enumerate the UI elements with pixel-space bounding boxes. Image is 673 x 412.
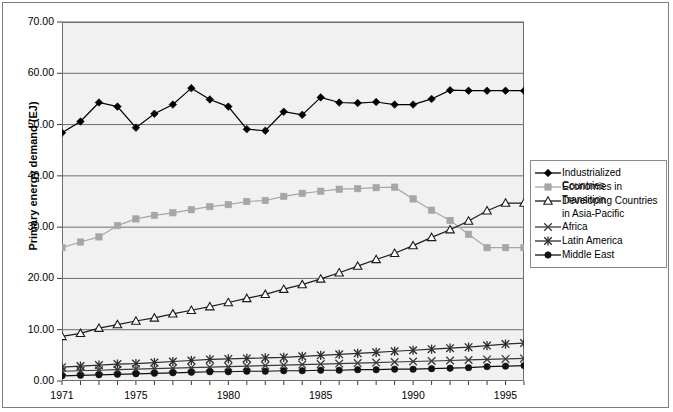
square-marker-icon [534,180,562,194]
data-point-marker [520,87,528,95]
data-point-marker [318,188,324,194]
data-point-marker [409,101,417,109]
data-point-marker [170,210,176,216]
chart-legend: Industrialized CountriesEconomies in Tra… [530,160,667,268]
data-point-marker [133,371,139,377]
data-point-marker [373,367,379,373]
data-point-marker [390,249,398,256]
data-point-marker [409,241,417,248]
star-marker-icon [534,234,562,248]
data-point-marker [502,244,508,250]
legend-item[interactable]: Economies in Transition [534,180,662,194]
data-point-marker [428,365,434,371]
data-point-marker [447,217,453,223]
data-point-marker [59,244,65,250]
data-point-marker [428,207,434,213]
diamond-marker-icon [534,166,562,180]
legend-item[interactable]: Africa [534,220,662,234]
data-point-marker [58,129,66,137]
data-point-marker [336,367,342,373]
data-point-marker [410,366,416,372]
data-point-marker [502,87,510,95]
data-point-marker [354,185,360,191]
data-point-marker [545,252,551,258]
legend-item-label: Middle East [562,248,614,261]
data-point-marker [465,87,473,95]
data-point-marker [521,244,527,250]
data-point-marker [391,101,399,109]
data-point-marker [170,370,176,376]
data-point-marker [373,184,379,190]
series-2 [58,199,528,340]
data-point-marker [207,203,213,209]
x-marker-icon [534,220,562,234]
data-point-marker [428,95,436,103]
data-point-marker [446,86,454,94]
data-point-marker [114,371,120,377]
legend-item-label: Latin America [562,234,623,247]
data-point-marker [544,169,552,177]
data-point-marker [354,367,360,373]
data-point-marker [391,366,397,372]
y-axis-ticks [57,22,62,381]
data-point-marker [446,226,454,233]
legend-item[interactable]: Latin America [534,234,662,248]
data-point-marker [77,372,83,378]
data-point-marker [354,99,362,107]
data-point-marker [483,207,491,214]
data-point-marker [244,368,250,374]
chart-page: Primary energy demand (EJ) 70.0060.0050.… [0,0,673,412]
data-point-marker [483,87,491,95]
data-point-marker [299,368,305,374]
data-point-marker [207,369,213,375]
gridlines [62,22,524,330]
legend-item[interactable]: Developing Countries in Asia-Pacific [534,194,662,220]
data-point-marker [96,234,102,240]
data-point-marker [188,369,194,375]
data-point-marker [410,196,416,202]
series-0 [58,84,528,136]
data-point-marker [262,368,268,374]
data-point-marker [464,217,472,224]
data-point-marker [336,186,342,192]
legend-item-label: Africa [562,220,588,233]
data-point-marker [484,363,490,369]
data-point-marker [465,231,471,237]
data-point-marker [502,363,508,369]
data-point-marker [484,244,490,250]
data-point-marker [447,365,453,371]
legend-item[interactable]: Middle East [534,248,662,262]
data-point-marker [114,222,120,228]
data-point-marker [133,216,139,222]
series-4 [58,338,528,371]
data-point-marker [335,99,343,107]
legend-item-label: Developing Countries in Asia-Pacific [562,194,658,220]
data-series-group [58,84,528,379]
data-point-marker [521,362,527,368]
data-point-marker [59,373,65,379]
legend-item[interactable]: Industrialized Countries [534,166,662,180]
data-point-marker [188,207,194,213]
data-point-marker [206,96,214,104]
data-point-marker [262,197,268,203]
data-point-marker [225,201,231,207]
data-point-marker [299,190,305,196]
data-point-marker [372,98,380,106]
data-point-marker [281,193,287,199]
data-point-marker [391,184,397,190]
data-point-marker [225,369,231,375]
data-point-marker [151,212,157,218]
data-point-marker [96,372,102,378]
data-point-marker [244,198,250,204]
data-point-marker [465,364,471,370]
series-1 [59,184,527,251]
data-point-marker [77,239,83,245]
triangle-marker-icon [534,194,562,208]
data-point-marker [427,233,435,240]
x-axis-ticks [62,381,524,385]
data-point-marker [545,184,551,190]
data-point-marker [151,370,157,376]
series-3 [58,355,528,375]
data-point-marker [318,367,324,373]
circle-marker-icon [534,248,562,262]
